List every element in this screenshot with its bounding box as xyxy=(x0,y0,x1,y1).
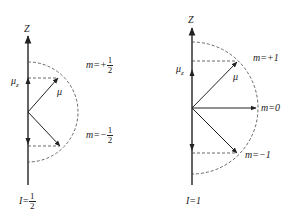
spin-half-diagram xyxy=(26,36,79,185)
spin-prefix: I= xyxy=(19,195,29,206)
mu-z-label-right: μz xyxy=(176,64,184,77)
m-plus-half-label: m=+12 xyxy=(86,56,113,75)
mu-vector-down-left xyxy=(28,112,60,146)
m-plus-one-label: m=+1 xyxy=(253,53,279,63)
mu-z-arrow-down-left xyxy=(26,138,31,145)
z-axis-label-left: Z xyxy=(24,24,30,34)
mu-vector-up-right xyxy=(192,62,237,108)
precession-arc-left xyxy=(28,62,78,162)
mu-vector-down-right xyxy=(192,108,237,153)
m-minus-half-label: m=−12 xyxy=(86,126,113,145)
mu-z-subscript-right: z xyxy=(181,69,184,77)
mu-z-label-left: μz xyxy=(11,76,19,89)
mu-label-right: μ xyxy=(233,72,238,82)
mu-vector-up-left xyxy=(28,78,58,112)
fraction: 12 xyxy=(107,56,114,75)
spin-label-right: I=1 xyxy=(186,196,201,206)
denominator: 2 xyxy=(29,202,36,211)
m-minus-one-label: m=−1 xyxy=(245,150,271,160)
mu-z-subscript-left: z xyxy=(16,81,19,89)
mu-z-arrow-up-right xyxy=(190,69,195,76)
diagram-canvas xyxy=(0,0,294,219)
mu-z-arrow-down-right xyxy=(190,144,195,151)
mu-label-left: μ xyxy=(57,87,62,97)
denominator: 2 xyxy=(107,136,114,145)
m-zero-label: m=0 xyxy=(261,103,280,113)
fraction: 12 xyxy=(107,126,114,145)
spin-one-diagram xyxy=(190,28,259,185)
spin-label-left: I=12 xyxy=(19,192,36,211)
fraction: 12 xyxy=(29,192,36,211)
m-prefix: m=+ xyxy=(86,59,107,70)
m-prefix: m=− xyxy=(86,129,107,140)
denominator: 2 xyxy=(107,66,114,75)
z-axis-label-right: Z xyxy=(188,15,194,25)
